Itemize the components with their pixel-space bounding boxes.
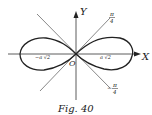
y-axis-label: Y [80, 6, 88, 17]
lemniscate-figure: Y X O −a √2 a √2 π 4 − π 4 Fig. 40 [0, 0, 152, 115]
y-axis-arrow-icon [74, 11, 79, 18]
svg-text:π: π [112, 81, 118, 88]
svg-text:4: 4 [109, 18, 114, 24]
svg-text:−: − [107, 84, 112, 91]
svg-text:π: π [109, 10, 115, 17]
origin-label: O [69, 59, 76, 68]
x-axis-arrow-icon [134, 52, 141, 57]
left-vertex-label: −a √2 [35, 54, 50, 60]
tangent-upper-angle-label: π 4 [109, 10, 115, 24]
tangent-lower-angle-label: − π 4 [107, 81, 118, 95]
svg-text:4: 4 [112, 89, 117, 95]
figure-caption: Fig. 40 [57, 103, 94, 114]
right-vertex-label: a √2 [100, 54, 111, 60]
x-axis-label: X [141, 51, 150, 62]
